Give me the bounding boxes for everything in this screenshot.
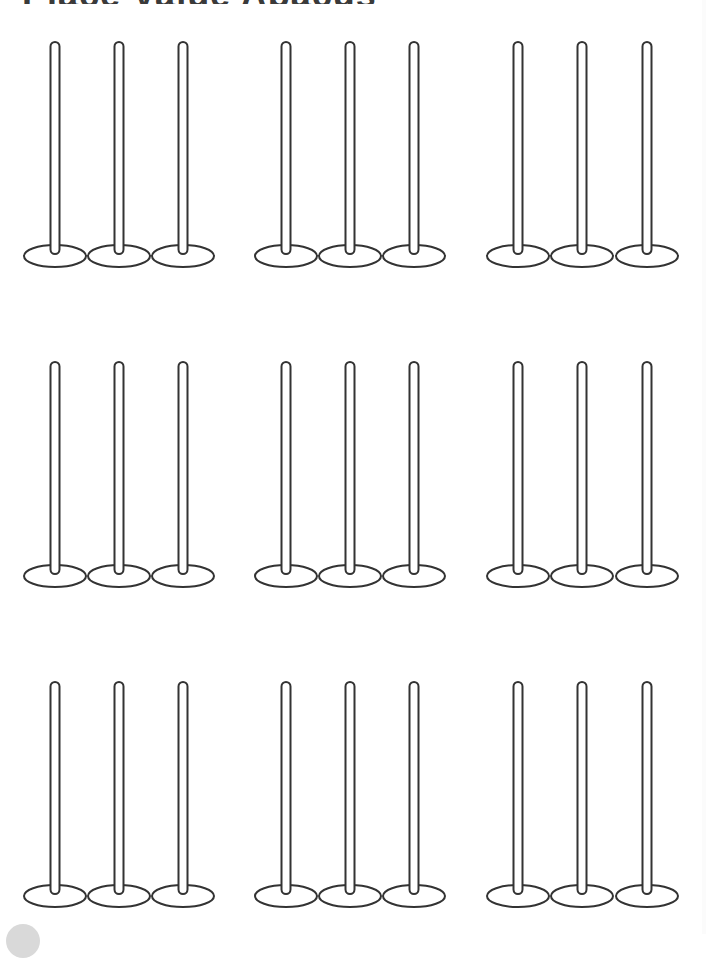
rod-stick-icon xyxy=(115,42,124,254)
rod-stick-icon xyxy=(643,42,652,254)
abacus-rod xyxy=(88,362,150,587)
rod-stick-icon xyxy=(115,362,124,574)
rod-stick-icon xyxy=(643,682,652,894)
rod-stick-icon xyxy=(578,42,587,254)
abacus-rod xyxy=(24,362,86,587)
rod-stick-icon xyxy=(410,362,419,574)
abacus-rod xyxy=(255,362,317,587)
rod-stick-icon xyxy=(179,682,188,894)
abacus-rod xyxy=(88,42,150,267)
abacus-rod xyxy=(551,362,613,587)
abacus-rod xyxy=(383,42,445,267)
abacus-rod xyxy=(319,362,381,587)
abacus-group xyxy=(487,42,678,267)
rod-stick-icon xyxy=(346,682,355,894)
abacus-rod xyxy=(152,362,214,587)
abacus-rod xyxy=(319,42,381,267)
rod-stick-icon xyxy=(51,682,60,894)
abacus-rod xyxy=(383,682,445,907)
rod-stick-icon xyxy=(514,682,523,894)
rod-stick-icon xyxy=(282,362,291,574)
rod-stick-icon xyxy=(346,42,355,254)
abacus-rod xyxy=(88,682,150,907)
abacus-rod xyxy=(616,362,678,587)
abacus-rod xyxy=(383,362,445,587)
abacus-row-1 xyxy=(24,42,678,267)
rod-stick-icon xyxy=(179,362,188,574)
rod-stick-icon xyxy=(51,42,60,254)
rod-stick-icon xyxy=(282,42,291,254)
page-edge xyxy=(702,0,706,934)
abacus-group xyxy=(255,682,445,907)
abacus-rod xyxy=(255,42,317,267)
abacus-rod xyxy=(24,42,86,267)
abacus-group xyxy=(487,362,678,587)
rod-stick-icon xyxy=(282,682,291,894)
abacus-group xyxy=(24,682,214,907)
rod-stick-icon xyxy=(115,682,124,894)
rod-stick-icon xyxy=(643,362,652,574)
rod-stick-icon xyxy=(346,362,355,574)
rod-stick-icon xyxy=(410,682,419,894)
abacus-group xyxy=(255,42,445,267)
rod-stick-icon xyxy=(578,362,587,574)
abacus-row-3 xyxy=(24,682,678,907)
abacus-rod xyxy=(319,682,381,907)
rod-stick-icon xyxy=(514,362,523,574)
abacus-group xyxy=(487,682,678,907)
abacus-rod xyxy=(255,682,317,907)
rod-stick-icon xyxy=(514,42,523,254)
abacus-row-2 xyxy=(24,362,678,587)
abacus-rod xyxy=(551,682,613,907)
abacus-rod xyxy=(551,42,613,267)
abacus-rod xyxy=(487,362,549,587)
page-corner-circle xyxy=(6,924,40,958)
abacus-group xyxy=(255,362,445,587)
abacus-rod xyxy=(487,42,549,267)
abacus-rod xyxy=(487,682,549,907)
abacus-rod xyxy=(616,682,678,907)
abacus-rod xyxy=(616,42,678,267)
rod-stick-icon xyxy=(51,362,60,574)
abacus-group xyxy=(24,42,214,267)
rod-stick-icon xyxy=(410,42,419,254)
abacus-group xyxy=(24,362,214,587)
rod-stick-icon xyxy=(578,682,587,894)
abacus-rod xyxy=(24,682,86,907)
abacus-rod xyxy=(152,682,214,907)
rod-stick-icon xyxy=(179,42,188,254)
abacus-rod xyxy=(152,42,214,267)
